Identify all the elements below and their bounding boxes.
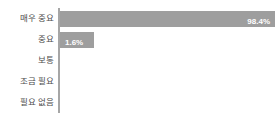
- category-label: 보통: [0, 50, 54, 71]
- bar-rows: 매우 중요 98.4% 중요 1.6% 보통: [0, 8, 279, 113]
- bar-value-label: 1.6%: [65, 35, 83, 51]
- bar-segment[interactable]: 1.6%: [60, 32, 94, 48]
- category-label: 필요 없음: [0, 92, 54, 113]
- bar-track: [60, 92, 279, 113]
- bar-track: 1.6%: [60, 29, 279, 50]
- bar-value-label: 98.4%: [247, 14, 270, 30]
- chart-row: 보통: [0, 50, 279, 71]
- bar-track: [60, 50, 279, 71]
- chart-row: 조금 필요: [0, 71, 279, 92]
- bar-track: [60, 71, 279, 92]
- chart-row: 필요 없음: [0, 92, 279, 113]
- bar-segment[interactable]: 98.4%: [60, 11, 275, 27]
- chart-row: 중요 1.6%: [0, 29, 279, 50]
- category-label: 매우 중요: [0, 8, 54, 29]
- chart-row: 매우 중요 98.4%: [0, 8, 279, 29]
- bar-chart: 매우 중요 98.4% 중요 1.6% 보통: [0, 0, 279, 126]
- category-label: 조금 필요: [0, 71, 54, 92]
- category-label: 중요: [0, 29, 54, 50]
- bar-track: 98.4%: [60, 8, 279, 29]
